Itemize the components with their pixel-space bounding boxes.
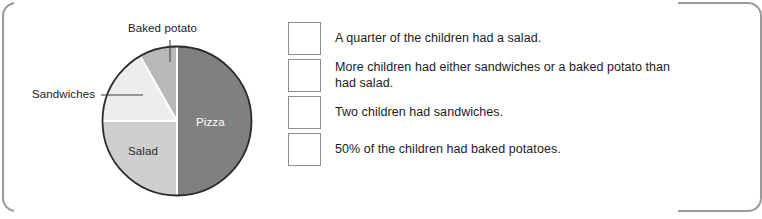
pie-label-sandwiches: Sandwiches bbox=[32, 88, 95, 100]
pie-label-pizza: Pizza bbox=[196, 116, 225, 128]
statement-text-1: A quarter of the children had a salad. bbox=[335, 22, 541, 46]
statement-text-4: 50% of the children had baked potatoes. bbox=[335, 133, 561, 157]
statement-checkbox-3[interactable] bbox=[288, 96, 321, 129]
statement-checkbox-4[interactable] bbox=[288, 133, 321, 166]
statement-list: A quarter of the children had a salad. M… bbox=[288, 22, 674, 170]
statement-row: A quarter of the children had a salad. bbox=[288, 22, 674, 55]
pie-chart: Baked potato Sandwiches Pizza Salad bbox=[0, 0, 280, 219]
pie-label-baked-potato: Baked potato bbox=[128, 22, 197, 34]
statement-checkbox-2[interactable] bbox=[288, 59, 321, 92]
statement-row: Two children had sandwiches. bbox=[288, 96, 674, 129]
pie-slice-salad bbox=[103, 121, 178, 196]
statement-checkbox-1[interactable] bbox=[288, 22, 321, 55]
statement-text-2: More children had either sandwiches or a… bbox=[335, 59, 674, 91]
statement-row: 50% of the children had baked potatoes. bbox=[288, 133, 674, 166]
statement-text-3: Two children had sandwiches. bbox=[335, 96, 503, 120]
statement-row: More children had either sandwiches or a… bbox=[288, 59, 674, 92]
pie-label-salad: Salad bbox=[128, 145, 158, 157]
